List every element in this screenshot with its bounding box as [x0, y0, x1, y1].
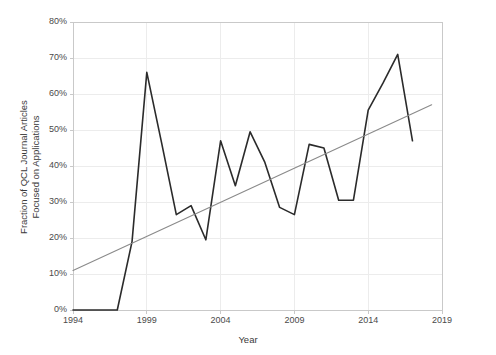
y-axis-title-line2: Focused on Applications — [30, 67, 42, 267]
line-chart — [0, 0, 496, 355]
y-tick-label-80: 80% — [33, 16, 67, 26]
data-line-applications-fraction — [73, 54, 412, 310]
x-tick-label-1999: 1999 — [127, 315, 167, 325]
y-axis-title-line1: Fraction of QCL Journal Articles — [18, 67, 30, 267]
x-tick-label-2009: 2009 — [274, 315, 314, 325]
y-tick-label-0: 0% — [33, 304, 67, 314]
grid-lines — [73, 22, 442, 310]
chart-container: 0%10%20%30%40%50%60%70%80% 1994199920042… — [0, 0, 496, 355]
data-series-layer — [73, 54, 432, 310]
x-tick-label-2019: 2019 — [422, 315, 462, 325]
x-tick-label-1994: 1994 — [53, 315, 93, 325]
x-axis-title: Year — [0, 334, 496, 345]
y-tick-label-70: 70% — [33, 52, 67, 62]
y-axis-title: Fraction of QCL Journal Articles Focused… — [18, 67, 42, 267]
x-tick-label-2014: 2014 — [348, 315, 388, 325]
y-tick-label-10: 10% — [33, 268, 67, 278]
x-tick-label-2004: 2004 — [201, 315, 241, 325]
